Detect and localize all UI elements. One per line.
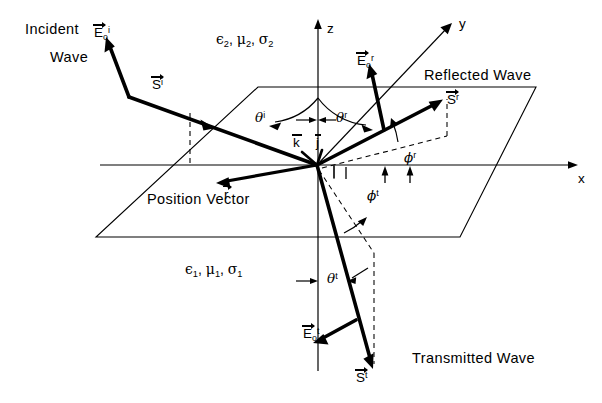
x-axis-label: x (578, 172, 585, 186)
medium-lower-label: ϵ1, μ1, σ1 (185, 262, 243, 279)
reflected-S-label: Sr (447, 93, 459, 107)
phi-transmitted-symbol: ϕ (367, 187, 376, 203)
transmitted-E-vector (323, 320, 356, 338)
unit-vector-k-text: k (293, 135, 300, 150)
incident-E-label: Eoi (94, 26, 110, 42)
medium-upper-sigma: σ (259, 31, 269, 47)
medium-lower-mu: μ (206, 261, 215, 277)
transmitted-ray (317, 165, 370, 358)
reflected-E-sup: r (371, 53, 374, 63)
theta-reflected-label: θr (336, 111, 347, 125)
position-vector-ray (227, 165, 317, 181)
medium-upper-mu: μ (237, 31, 246, 47)
reflected-E-vector (372, 74, 384, 130)
diagram-canvas (0, 0, 602, 403)
medium-lower-epsilon: ϵ (185, 261, 193, 277)
phi-reflected-symbol: ϕ (404, 149, 413, 165)
medium-upper-sep1: , (229, 31, 233, 47)
phi-transmitted-label: ϕt (367, 189, 379, 203)
medium-upper-sep2: , (251, 31, 255, 47)
theta-i-arc-arrowhead (269, 122, 281, 130)
x-axis-arrowhead (568, 161, 578, 169)
reflected-ray (317, 103, 437, 165)
theta-r-pointer-arrowhead (318, 117, 326, 123)
incident-wave-label-line1: Incident (25, 22, 79, 37)
incident-ray (129, 97, 317, 165)
transmitted-wave-label: Transmitted Wave (412, 351, 535, 366)
medium-lower-sep2: , (220, 261, 224, 277)
theta-incident-symbol: θ (255, 109, 263, 125)
reflected-wave-label: Reflected Wave (424, 68, 531, 83)
theta-transmitted-label: θt (327, 272, 338, 286)
phi-transmitted-sup: t (376, 188, 378, 198)
incident-E-sup: i (108, 25, 110, 35)
transmitted-phi-dashed-baseline (319, 170, 374, 253)
transmitted-E-sup: t (317, 326, 319, 336)
incident-S-label: Si (152, 78, 163, 92)
theta-incident-sup: i (263, 110, 265, 120)
z-axis-arrowhead (314, 19, 322, 29)
theta-transmitted-symbol: θ (327, 270, 335, 286)
theta-i-pointer-arrowhead (309, 117, 317, 123)
position-vector-label: Position Vector (147, 192, 250, 207)
theta-incident-label: θi (255, 111, 265, 125)
medium-lower-sep1: , (198, 261, 202, 277)
theta-t-pointer-right (352, 268, 368, 278)
theta-reflected-symbol: θ (336, 109, 344, 125)
unit-vector-k-label: k (293, 136, 300, 150)
incident-wave-label-line2: Wave (50, 50, 88, 65)
unit-vector-j-label: j (316, 136, 319, 150)
unit-vector-j-text: j (316, 135, 319, 150)
figure-root: Incident Wave Reflected Wave Transmitted… (0, 0, 602, 403)
medium-upper-label: ϵ2, μ2, σ2 (216, 32, 274, 49)
transmitted-E-label: Eot (303, 327, 319, 343)
y-axis-label: y (459, 17, 466, 31)
medium-upper-epsilon: ϵ (216, 31, 224, 47)
theta-r-arc-arrowhead (361, 125, 373, 133)
theta-t-pointer-left-arrowhead (310, 278, 318, 284)
phi-reflected-label: ϕr (404, 151, 416, 165)
transmitted-S-label: St (356, 371, 368, 385)
z-axis-label: z (327, 22, 334, 36)
medium-upper-sigma-sub: 2 (268, 39, 273, 49)
medium-lower-sigma: σ (228, 261, 238, 277)
medium-lower-sigma-sub: 1 (237, 269, 242, 279)
theta-reflected-sup: r (344, 110, 347, 120)
phi-reflected-sup: r (413, 150, 416, 160)
reflected-E-label: Eor (357, 54, 374, 70)
phi-t-arc-arrowhead (358, 217, 367, 226)
y-axis (317, 28, 447, 165)
position-vector-symbol: r (224, 188, 229, 202)
theta-transmitted-sup: t (335, 271, 337, 281)
incident-E-vector (110, 47, 129, 97)
